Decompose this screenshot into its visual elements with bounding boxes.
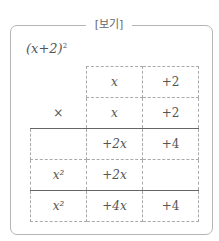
table-cell bbox=[31, 67, 87, 98]
table-cell: × bbox=[31, 98, 87, 129]
table-row: × x +2 bbox=[31, 98, 199, 129]
table-row: x +2 bbox=[31, 67, 199, 98]
table-cell: x² bbox=[31, 191, 87, 222]
table-cell: +4x bbox=[87, 191, 143, 222]
table-row: +2x +4 bbox=[31, 129, 199, 160]
table-cell: x bbox=[87, 98, 143, 129]
table-cell: +4 bbox=[143, 191, 199, 222]
multiplication-table: x +2 × x +2 +2x +4 x² +2x x² +4x +4 bbox=[30, 66, 199, 222]
table-cell: x bbox=[87, 67, 143, 98]
table-cell bbox=[31, 129, 87, 160]
expression: (x+2)2 bbox=[26, 41, 67, 56]
table-cell: +2 bbox=[143, 67, 199, 98]
table-cell: +2x bbox=[87, 129, 143, 160]
table-cell: +4 bbox=[143, 129, 199, 160]
table-cell: +2x bbox=[87, 160, 143, 191]
table-cell: x² bbox=[31, 160, 87, 191]
box-title: [보기] bbox=[86, 18, 132, 32]
table-row: x² +2x bbox=[31, 160, 199, 191]
table-cell bbox=[143, 160, 199, 191]
table-row: x² +4x +4 bbox=[31, 191, 199, 222]
table-cell: +2 bbox=[143, 98, 199, 129]
